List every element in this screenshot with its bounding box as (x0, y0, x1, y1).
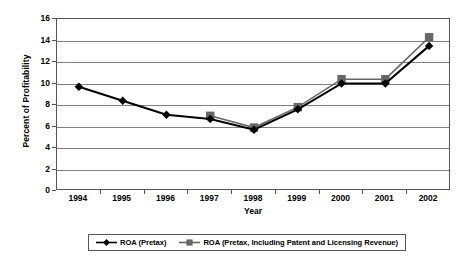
y-tick-mark (52, 18, 56, 19)
y-tick-label: 14 (16, 36, 50, 45)
legend-label: ROA (Pretax) (120, 238, 166, 247)
x-tick-mark (100, 190, 101, 194)
legend-item: ROA (Pretax, Including Patent and Licens… (179, 238, 398, 247)
chart-legend: ROA (Pretax)ROA (Pretax, Including Paten… (88, 234, 406, 251)
data-point-marker (162, 110, 170, 118)
diamond-line-marker (96, 238, 117, 247)
data-point-marker (118, 97, 126, 105)
x-tick-mark (144, 190, 145, 194)
x-tick-mark (362, 190, 363, 194)
x-axis-title: Year (56, 206, 450, 216)
y-tick-label: 6 (16, 122, 50, 131)
y-tick-mark (52, 83, 56, 84)
series-roa-pretax (75, 42, 434, 134)
series-layer (57, 19, 451, 191)
plot-area (56, 18, 450, 190)
y-tick-label: 8 (16, 100, 50, 109)
y-tick-label: 4 (16, 143, 50, 152)
y-tick-mark (52, 190, 56, 191)
y-tick-mark (52, 104, 56, 105)
x-tick-mark (231, 190, 232, 194)
data-point-marker (75, 83, 83, 91)
y-tick-mark (52, 147, 56, 148)
y-tick-label: 2 (16, 165, 50, 174)
y-tick-label: 0 (16, 186, 50, 195)
y-tick-mark (52, 40, 56, 41)
y-tick-label: 12 (16, 57, 50, 66)
series-line (210, 37, 429, 127)
y-tick-mark (52, 126, 56, 127)
y-tick-mark (52, 169, 56, 170)
x-tick-mark (275, 190, 276, 194)
x-tick-mark (406, 190, 407, 194)
y-tick-label: 16 (16, 14, 50, 23)
square-line-marker (179, 238, 200, 247)
x-tick-label: 2002 (400, 194, 456, 203)
y-tick-mark (52, 61, 56, 62)
data-point-marker (425, 33, 433, 41)
series-roa-pretax-patent (206, 33, 433, 132)
legend-label: ROA (Pretax, Including Patent and Licens… (203, 238, 398, 247)
x-tick-mark (187, 190, 188, 194)
chart-figure: Percent of Profitability 1614121086420 1… (0, 0, 470, 259)
y-tick-label: 10 (16, 79, 50, 88)
x-tick-mark (319, 190, 320, 194)
legend-item: ROA (Pretax) (96, 238, 166, 247)
series-line (79, 46, 429, 130)
